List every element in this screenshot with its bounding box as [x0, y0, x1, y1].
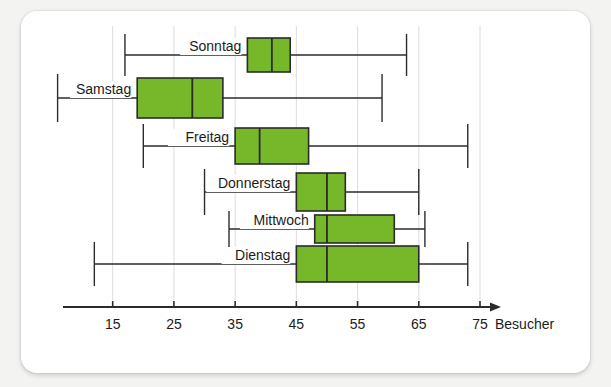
series-label-dienstag: Dienstag — [235, 247, 290, 263]
series-label-donnerstag: Donnerstag — [218, 175, 290, 191]
axis-tick-label: 65 — [411, 316, 427, 332]
axis-tick-label: 35 — [227, 316, 243, 332]
axis-tick-label: 15 — [105, 316, 121, 332]
box-iqr[interactable] — [296, 246, 418, 282]
axis-tick-label: 25 — [166, 316, 182, 332]
axis-tick-label: 75 — [472, 316, 488, 332]
series-label-freitag: Freitag — [186, 129, 230, 145]
axis-unit-label: Besucher — [495, 316, 554, 332]
series-label-samstag: Samstag — [76, 81, 131, 97]
series-label-sonntag: Sonntag — [189, 38, 241, 54]
axis-tick-label: 45 — [289, 316, 305, 332]
boxplot-sonntag[interactable] — [125, 34, 407, 76]
box-iqr[interactable] — [137, 78, 223, 118]
axis-tick-label: 55 — [350, 316, 366, 332]
box-iqr[interactable] — [296, 173, 345, 211]
box-iqr[interactable] — [235, 128, 308, 164]
box-iqr[interactable] — [247, 38, 290, 72]
x-axis: 15253545556575Besucher — [63, 301, 554, 332]
chart-root: SonntagSamstagFreitagDonnerstagMittwochD… — [0, 0, 611, 387]
right-arrow-icon — [490, 303, 501, 312]
boxplot-figure: SonntagSamstagFreitagDonnerstagMittwochD… — [0, 0, 611, 387]
series-label-mittwoch: Mittwoch — [253, 212, 308, 228]
